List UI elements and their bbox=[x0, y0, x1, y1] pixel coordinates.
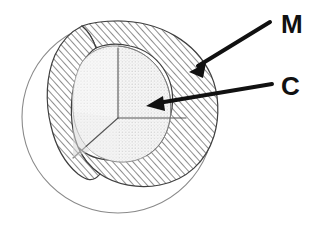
mantle-label: M bbox=[281, 9, 303, 39]
planet-interior-cutaway-figure: M C bbox=[0, 0, 316, 230]
mantle-arrow-shaft bbox=[198, 22, 270, 66]
diagram-canvas: M C bbox=[0, 0, 316, 230]
core-label: C bbox=[281, 71, 300, 101]
